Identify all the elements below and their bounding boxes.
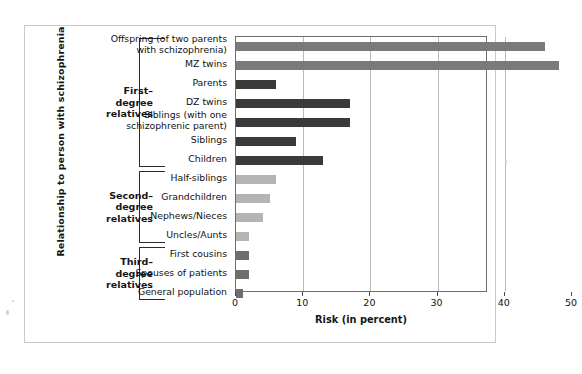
x-tick-label: 0 [215, 297, 255, 308]
x-tick [235, 292, 236, 296]
bar [236, 137, 296, 146]
category-label: Grandchildren [105, 192, 227, 203]
bar [236, 99, 350, 108]
category-label-line: Grandchildren [105, 192, 227, 203]
bar [236, 156, 323, 165]
gridline [370, 37, 371, 291]
category-label: MZ twins [105, 59, 227, 70]
x-tick-label: 10 [282, 297, 322, 308]
x-axis-title: Risk (in percent) [235, 314, 487, 325]
category-label: Half-siblings [105, 173, 227, 184]
bar [236, 251, 249, 260]
bar [236, 61, 559, 70]
category-label-line: MZ twins [105, 59, 227, 70]
category-label: DZ twins [105, 97, 227, 108]
category-label-line: First cousins [105, 249, 227, 260]
category-label-line: with schizophrenia) [105, 45, 227, 56]
x-tick-label: 40 [484, 297, 524, 308]
category-label-line: Parents [105, 78, 227, 89]
category-label: Children [105, 154, 227, 165]
chart-figure: Relationship to person with schizophreni… [24, 25, 496, 343]
category-label-line: Half-siblings [105, 173, 227, 184]
plot-area: Offspring (of two parentswith schizophre… [107, 36, 487, 334]
bar [236, 194, 270, 203]
bar [236, 175, 276, 184]
gridline [438, 37, 439, 291]
bar [236, 80, 276, 89]
category-label: Offspring (of two parentswith schizophre… [105, 34, 227, 55]
x-tick [437, 292, 438, 296]
category-label: Spouses of patients [105, 268, 227, 279]
category-label-line: Siblings [105, 135, 227, 146]
x-tick [369, 292, 370, 296]
scan-speckle [12, 300, 14, 302]
x-tick [571, 292, 572, 296]
bar [236, 42, 545, 51]
scan-speckle [6, 310, 9, 315]
category-label: Siblings [105, 135, 227, 146]
gridline [505, 37, 506, 291]
bar [236, 232, 249, 241]
bar [236, 118, 350, 127]
bar [236, 213, 263, 222]
bar [236, 270, 249, 279]
category-label-column: Offspring (of two parentswith schizophre… [107, 36, 231, 292]
x-tick-label: 20 [349, 297, 389, 308]
category-label-line: Uncles/Aunts [105, 230, 227, 241]
x-tick-label: 30 [417, 297, 457, 308]
bars-axes-box [235, 36, 487, 292]
category-label: Siblings (with oneschizophrenic parent) [105, 110, 227, 131]
category-label: Parents [105, 78, 227, 89]
category-label-line: DZ twins [105, 97, 227, 108]
category-label: First cousins [105, 249, 227, 260]
x-tick [504, 292, 505, 296]
category-label: Nephews/Nieces [105, 211, 227, 222]
category-label: General population [105, 287, 227, 298]
category-label-line: schizophrenic parent) [105, 121, 227, 132]
category-label-line: General population [105, 287, 227, 298]
category-label-line: Spouses of patients [105, 268, 227, 279]
category-label-line: Nephews/Nieces [105, 211, 227, 222]
category-label: Uncles/Aunts [105, 230, 227, 241]
x-tick [302, 292, 303, 296]
scan-speckle [505, 160, 507, 163]
category-label-line: Children [105, 154, 227, 165]
x-tick-label: 50 [551, 297, 582, 308]
x-axis-area: Risk (in percent) 01020304050 [235, 292, 487, 334]
